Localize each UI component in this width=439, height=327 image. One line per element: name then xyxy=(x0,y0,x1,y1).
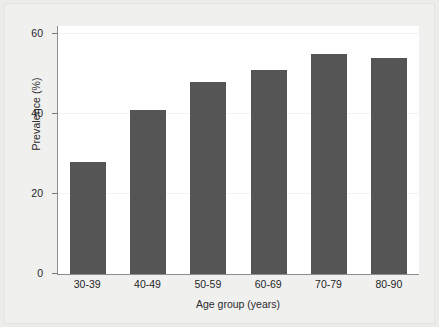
bar-slot xyxy=(58,26,118,274)
x-axis-tick-label: 70-79 xyxy=(298,278,358,290)
plot-area: 0204060 xyxy=(57,26,419,275)
bar-slot xyxy=(178,26,238,274)
x-axis-tick-label: 60-69 xyxy=(238,278,298,290)
bar[interactable] xyxy=(311,54,347,274)
x-axis-tick-label: 40-49 xyxy=(117,278,177,290)
bar-slot xyxy=(239,26,299,274)
bar[interactable] xyxy=(70,162,106,274)
x-axis-title: Age group (years) xyxy=(57,298,419,310)
bar[interactable] xyxy=(251,70,287,274)
y-axis-tick-label: 40 xyxy=(31,107,43,119)
x-axis-tick-labels: 30-3940-4950-5960-6970-7980-90 xyxy=(57,278,419,290)
bar-series xyxy=(58,26,419,274)
bar[interactable] xyxy=(190,82,226,274)
x-axis-tick-label: 80-90 xyxy=(359,278,419,290)
bar[interactable] xyxy=(130,110,166,274)
y-axis-tick-label: 20 xyxy=(31,187,43,199)
bar-slot xyxy=(118,26,178,274)
y-axis-tick-label: 60 xyxy=(31,27,43,39)
bar-slot xyxy=(359,26,419,274)
x-axis-tick-label: 50-59 xyxy=(178,278,238,290)
figure: Prevalence (%) 0204060 30-3940-4950-5960… xyxy=(0,0,439,327)
x-axis-tick-label: 30-39 xyxy=(57,278,117,290)
bar-slot xyxy=(299,26,359,274)
bar[interactable] xyxy=(371,58,407,274)
y-axis-tick-label: 0 xyxy=(37,267,43,279)
plot-inner: 0204060 xyxy=(58,26,419,274)
